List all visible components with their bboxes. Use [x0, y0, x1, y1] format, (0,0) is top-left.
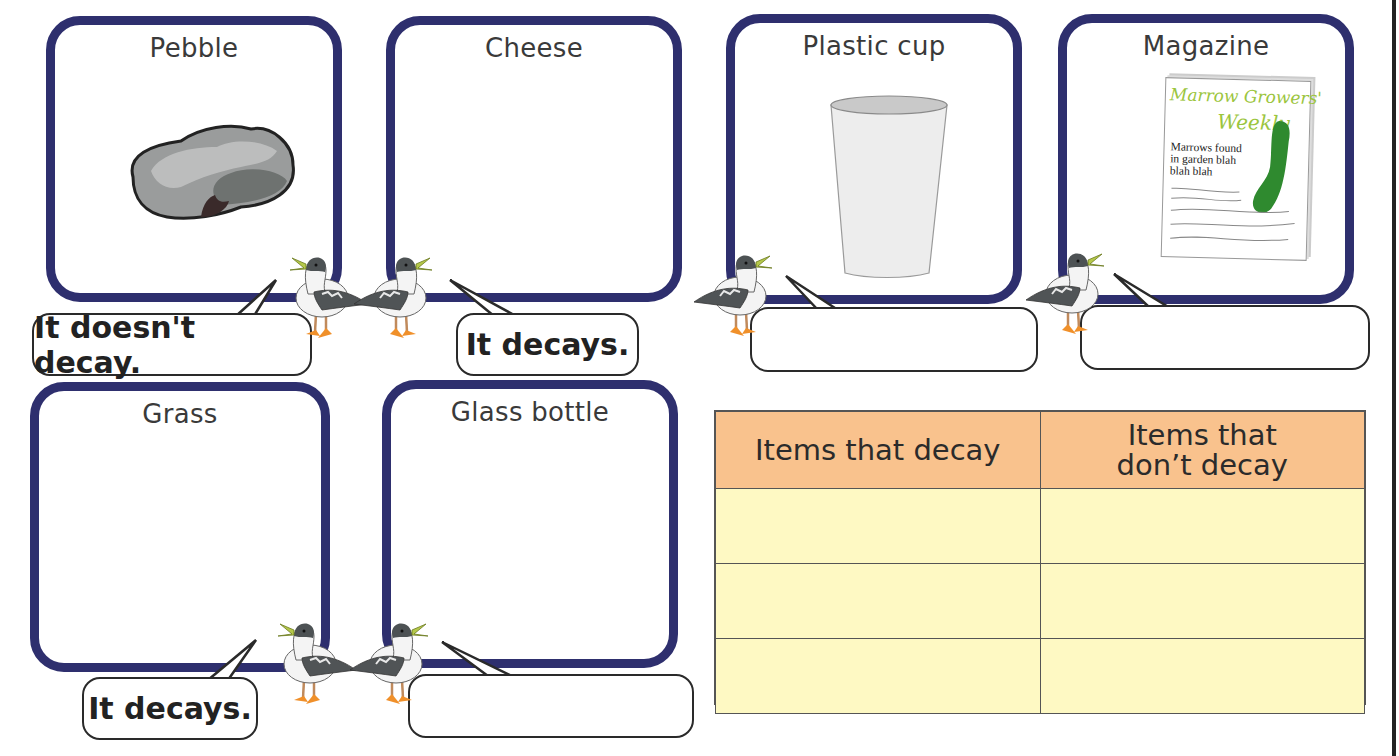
table-header-dont-decay: Items that don’t decay: [1040, 412, 1365, 489]
page-edge-divider: [1392, 0, 1396, 756]
table-cell-dont-decay[interactable]: [1040, 639, 1365, 714]
card-title-glass-bottle: Glass bottle: [391, 397, 669, 427]
seagull-icon: [690, 246, 780, 342]
table-row: [716, 564, 1365, 639]
table-row: [716, 489, 1365, 564]
sorting-table: Items that decay Items that don’t decay: [714, 410, 1366, 705]
answer-bubble-plastic-cup[interactable]: [750, 307, 1038, 372]
table-cell-decay[interactable]: [716, 489, 1041, 564]
answer-bubble-glass-bottle[interactable]: [408, 674, 694, 738]
table-header-decay: Items that decay: [716, 412, 1041, 489]
answer-bubble-cheese[interactable]: It decays.: [456, 313, 639, 376]
answer-bubble-pebble[interactable]: It doesn't decay.: [32, 313, 312, 376]
table-cell-decay[interactable]: [716, 564, 1041, 639]
answer-bubble-magazine[interactable]: [1080, 305, 1370, 370]
table-cell-dont-decay[interactable]: [1040, 489, 1365, 564]
card-title-grass: Grass: [39, 399, 321, 429]
answer-bubble-grass[interactable]: It decays.: [82, 677, 258, 740]
seagull-icon: [346, 614, 436, 710]
seagull-icon: [1022, 244, 1112, 340]
seagull-icon: [350, 248, 440, 344]
table-cell-decay[interactable]: [716, 639, 1041, 714]
table-row: [716, 639, 1365, 714]
table-cell-dont-decay[interactable]: [1040, 564, 1365, 639]
